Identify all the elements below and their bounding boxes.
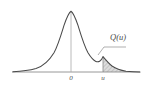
shaded-tail-region <box>103 57 140 72</box>
x-tick-label-zero: 0 <box>66 75 76 82</box>
q-label-leader-line <box>98 47 126 55</box>
q-function-area-fill <box>103 57 140 72</box>
curve-helper <box>13 11 103 71</box>
gaussian-q-function-figure: 0 u Q(u) <box>0 0 148 91</box>
x-tick-label-u: u <box>98 75 108 82</box>
q-function-label: Q(u) <box>110 33 126 42</box>
